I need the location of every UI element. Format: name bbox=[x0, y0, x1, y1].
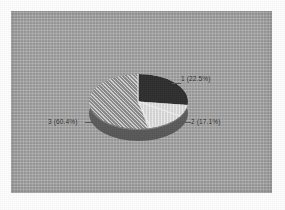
pie-chart-figure: 1 (22.5%) 2 (17.1%) 3 (60.4%) bbox=[0, 0, 285, 210]
leader-line-slice-2 bbox=[180, 122, 191, 123]
pie-label-slice-2: 2 (17.1%) bbox=[191, 118, 221, 125]
pie-label-slice-3: 3 (60.4%) bbox=[48, 118, 78, 125]
pie-graphic bbox=[89, 74, 188, 142]
leader-line-slice-3 bbox=[85, 122, 93, 123]
slice-separator-1 bbox=[138, 74, 139, 102]
leader-line-slice-1 bbox=[172, 83, 181, 84]
pie-label-slice-1: 1 (22.5%) bbox=[181, 75, 211, 82]
